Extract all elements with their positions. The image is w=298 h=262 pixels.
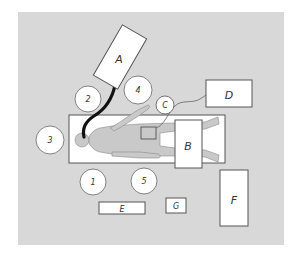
equipment-D-label: D <box>225 89 233 102</box>
equipment-A-label: A <box>114 53 123 66</box>
person-1-label: 1 <box>90 178 95 187</box>
person-5: 5 <box>131 168 157 194</box>
person-4-label: 4 <box>135 86 140 95</box>
equipment-F: F <box>220 170 248 226</box>
surgical-field-box <box>141 127 156 139</box>
person-1: 1 <box>80 169 106 195</box>
equipment-B-label: B <box>184 140 192 153</box>
equipment-B: B <box>175 120 202 168</box>
equipment-C: C <box>156 96 174 114</box>
equipment-C-label: C <box>162 101 168 110</box>
patient-head <box>75 133 89 147</box>
person-2-label: 2 <box>85 95 90 104</box>
person-2: 2 <box>75 86 101 112</box>
equipment-G-label: G <box>173 202 179 211</box>
person-4: 4 <box>124 76 152 104</box>
equipment-D: D <box>206 80 252 107</box>
equipment-F-label: F <box>231 194 238 207</box>
person-3-label: 3 <box>47 136 52 145</box>
equipment-G: G <box>166 198 186 213</box>
person-3: 3 <box>36 126 64 154</box>
equipment-E: E <box>99 202 145 214</box>
person-5-label: 5 <box>141 177 146 186</box>
or-layout-diagram: A B C D E F G 1 2 3 4 <box>0 0 298 262</box>
